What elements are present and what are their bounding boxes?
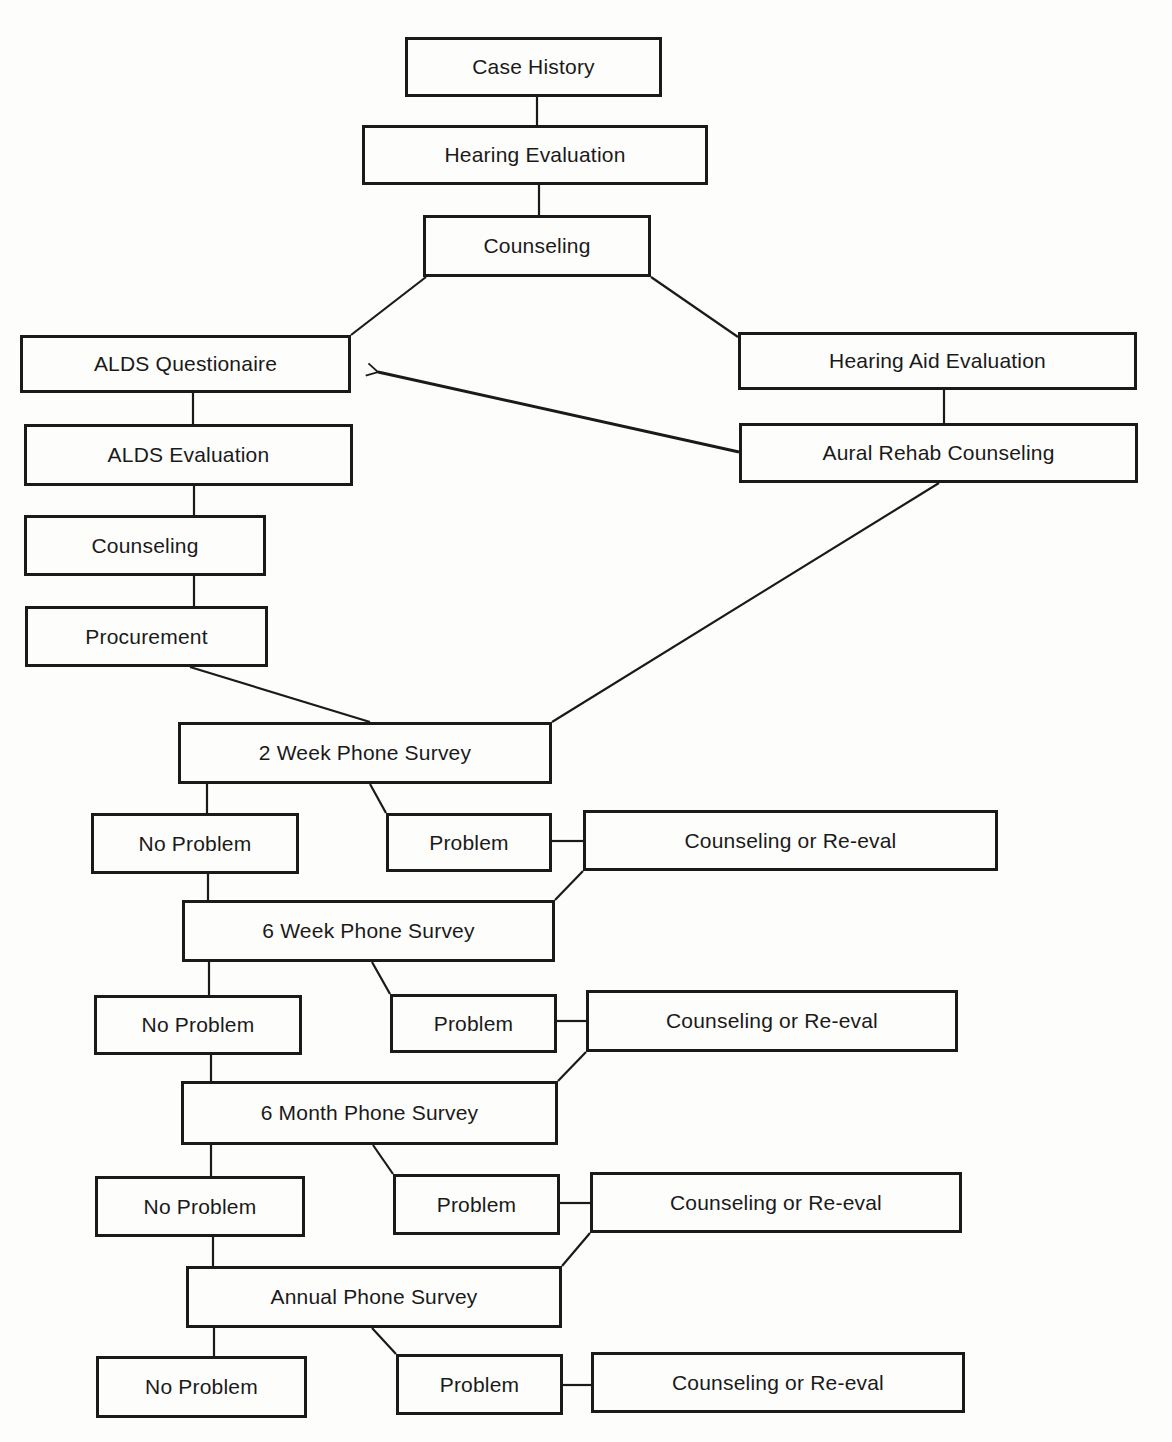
node-survey-annual: Annual Phone Survey (186, 1266, 562, 1328)
connector-survey_2week-to-problem_1 (370, 784, 386, 813)
node-no-problem-2: No Problem (94, 995, 302, 1055)
connector-procurement-to-survey_2week (190, 667, 370, 722)
connector-survey_6week-to-problem_2 (372, 962, 390, 994)
node-label: Counseling (483, 234, 590, 258)
node-label: 6 Week Phone Survey (262, 919, 474, 943)
connector-survey_annual-to-problem_4 (372, 1328, 396, 1354)
node-alds-questionaire: ALDS Questionaire (20, 335, 351, 393)
node-label: No Problem (142, 1013, 255, 1037)
node-survey-6month: 6 Month Phone Survey (181, 1081, 558, 1145)
node-label: No Problem (139, 832, 252, 856)
node-label: Problem (437, 1193, 517, 1217)
node-label: 2 Week Phone Survey (259, 741, 471, 765)
node-label: No Problem (145, 1375, 258, 1399)
connector-aural_rehab_counseling-to-alds_questionaire (378, 372, 739, 452)
connector-aural_rehab_counseling-to-survey_2week (552, 483, 939, 722)
node-label: Counseling (91, 534, 198, 558)
node-label: Case History (472, 55, 595, 79)
node-survey-6week: 6 Week Phone Survey (182, 900, 555, 962)
node-label: Hearing Evaluation (444, 143, 625, 167)
node-label: Aural Rehab Counseling (822, 441, 1054, 465)
node-counseling-reeval-2: Counseling or Re-eval (586, 990, 958, 1052)
node-problem-4: Problem (396, 1354, 563, 1415)
node-counseling-reeval-3: Counseling or Re-eval (590, 1172, 962, 1233)
node-label: Problem (440, 1373, 520, 1397)
node-label: Counseling or Re-eval (670, 1191, 882, 1215)
node-no-problem-4: No Problem (96, 1356, 307, 1418)
node-hearing-aid-evaluation: Hearing Aid Evaluation (738, 332, 1137, 390)
node-problem-3: Problem (393, 1174, 560, 1235)
node-label: Problem (434, 1012, 514, 1036)
node-label: No Problem (144, 1195, 257, 1219)
node-counseling-reeval-4: Counseling or Re-eval (591, 1352, 965, 1413)
node-no-problem-3: No Problem (95, 1176, 305, 1237)
node-alds-evaluation: ALDS Evaluation (24, 424, 353, 486)
node-problem-1: Problem (386, 813, 552, 872)
node-hearing-evaluation: Hearing Evaluation (362, 125, 708, 185)
node-problem-2: Problem (390, 994, 557, 1053)
node-label: Counseling or Re-eval (685, 829, 897, 853)
node-counseling-top: Counseling (423, 215, 651, 277)
connector-counseling_reeval_2-to-survey_6month (558, 1052, 586, 1081)
node-survey-2week: 2 Week Phone Survey (178, 722, 552, 784)
node-label: Hearing Aid Evaluation (829, 349, 1046, 373)
connector-counseling_top-to-hearing_aid_evaluation (651, 277, 738, 337)
node-counseling-reeval-1: Counseling or Re-eval (583, 810, 998, 871)
node-label: ALDS Questionaire (94, 352, 277, 376)
node-procurement: Procurement (25, 606, 268, 667)
node-label: Problem (429, 831, 509, 855)
node-label: Counseling or Re-eval (672, 1371, 884, 1395)
node-label: Annual Phone Survey (271, 1285, 478, 1309)
node-counseling-left: Counseling (24, 515, 266, 576)
node-label: ALDS Evaluation (108, 443, 270, 467)
connector-survey_6month-to-problem_3 (373, 1145, 393, 1174)
node-label: 6 Month Phone Survey (261, 1101, 479, 1125)
node-label: Procurement (85, 625, 207, 649)
connector-counseling_reeval_1-to-survey_6week (555, 871, 583, 900)
node-aural-rehab-counseling: Aural Rehab Counseling (739, 423, 1138, 483)
node-case-history: Case History (405, 37, 662, 97)
connector-counseling_top-to-alds_questionaire (351, 277, 426, 335)
connector-counseling_reeval_3-to-survey_annual (562, 1233, 590, 1266)
node-no-problem-1: No Problem (91, 813, 299, 874)
node-label: Counseling or Re-eval (666, 1009, 878, 1033)
